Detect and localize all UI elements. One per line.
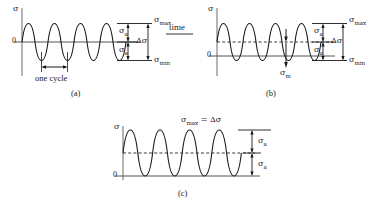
panel-a-zero-label: 0 [12,37,16,45]
panel-b-delta-sigma-arrowhead-top [341,24,344,29]
panel-a-sigma-a-lower-label: σa [119,46,128,56]
panel-b-sigma-max-label: σmax [349,16,366,26]
panel-c-sigma-max-equals-delta-label: σmax = Δσ [181,116,221,126]
panel-a-y-axis-label: σ [13,5,18,13]
panel-c-sigma-a-upper-label: σa [258,137,267,147]
panel-b-sigma-a-upper-label: σa [314,27,323,37]
panel-a-sigma-a-upper-label: σa [119,27,128,37]
panel-a-fully-reversed: σ 0 σmax σmin σa σa Δσ time one cycle (a… [0,0,195,104]
panel-b-sigma-a-lower-arrowhead-bottom [321,56,324,61]
panel-c-y-axis-label: σ [114,123,119,131]
panel-b-sigma-a-lower-label: σa [314,46,323,56]
panel-a-caption: (a) [71,88,80,98]
panel-a-cycle-arrowhead-right [63,65,68,69]
panel-a-sigma-min-label: σmin [154,56,170,66]
panel-b-repeated-cycle: σ 0 σmax σmin σa σa Δσ σm (b) [195,0,390,104]
panel-a-time-label: time [169,23,185,32]
panel-b-zero-label: 0 [207,51,211,59]
panel-b-sigma-m-upper-arrowhead [284,37,288,43]
panel-c-sigma-a-lower-label: σa [258,160,267,170]
panel-b-sigma-a-upper-arrowhead-bottom [321,38,324,43]
panel-a-sigma-a-upper-arrowhead-bottom [126,38,129,43]
panel-b-delta-sigma-arrowhead-bottom [341,56,344,61]
panel-b-sigma-min-label: σmin [349,56,365,66]
panel-c-zero-label: 0 [113,171,117,179]
panel-a-delta-sigma-arrowhead-top [146,24,149,29]
panel-c-zero-to-tension: σ 0 σmax = Δσ σa σa (c) [95,108,295,206]
panel-c-sigma-a-lower-arrowhead-top [250,153,253,158]
panel-c-sigma-a-upper-arrowhead-bottom [250,149,253,154]
panel-c-sigma-a-lower-arrowhead-bottom [250,172,253,177]
panel-b-sigma-m-label: σm [280,69,291,79]
panel-a-delta-sigma-arrowhead-bottom [146,56,149,61]
panel-c-caption: (c) [178,188,187,198]
panel-a-sigma-a-lower-arrowhead-bottom [126,56,129,61]
panel-a-cycle-arrowhead-left [42,65,47,69]
panel-b-delta-sigma-label: Δσ [331,37,342,45]
panel-a-delta-sigma-label: Δσ [136,37,147,45]
panel-a-one-cycle-label: one cycle [35,74,67,83]
panel-c-sigma-a-upper-arrowhead-top [250,130,253,135]
panel-b-y-axis-label: σ [208,5,213,13]
panel-b-caption: (b) [266,88,276,98]
